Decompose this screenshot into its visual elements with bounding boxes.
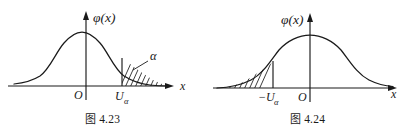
figure-panel-4-24: φ(x) x O −U α 图 4.24 bbox=[205, 0, 410, 137]
threshold-label-4-23: U α bbox=[115, 89, 129, 106]
density-curve-4-24 bbox=[217, 35, 393, 88]
plot-area-4-23: φ(x) x O U α α bbox=[0, 0, 205, 112]
caption-cjk-4-23: 图 bbox=[85, 113, 96, 126]
figure-panel-4-23: φ(x) x O U α α 图 4.23 bbox=[0, 0, 205, 137]
threshold-label-subscript-4-23: α bbox=[124, 96, 129, 106]
y-axis-arrow-icon bbox=[83, 11, 89, 20]
caption-number-4-24: 4.24 bbox=[304, 113, 325, 125]
y-axis-arrow-icon bbox=[307, 13, 313, 22]
origin-label-4-23: O bbox=[74, 88, 83, 102]
y-axis-label-4-24: φ(x) bbox=[281, 12, 304, 27]
caption-4-23: 图 4.23 bbox=[0, 110, 205, 126]
x-axis-label-4-23: x bbox=[179, 79, 186, 93]
caption-cjk-4-24: 图 bbox=[290, 113, 301, 126]
alpha-leader-line-4-23 bbox=[133, 61, 148, 70]
caption-number-4-23: 4.23 bbox=[99, 113, 120, 125]
alpha-area-label-4-23: α bbox=[150, 49, 157, 63]
plot-area-4-24: φ(x) x O −U α bbox=[205, 0, 410, 112]
x-axis-4-23 bbox=[8, 83, 174, 89]
threshold-label-subscript-4-24: α bbox=[274, 97, 279, 107]
threshold-label-4-24: −U α bbox=[258, 90, 279, 107]
y-axis-label-4-23: φ(x) bbox=[93, 10, 116, 25]
origin-label-4-24: O bbox=[298, 90, 307, 104]
y-axis-4-23 bbox=[83, 11, 89, 100]
x-axis-label-4-24: x bbox=[390, 87, 397, 101]
y-axis-4-24 bbox=[307, 13, 313, 102]
figure-sheet: φ(x) x O U α α 图 4.23 bbox=[0, 0, 410, 137]
caption-4-24: 图 4.24 bbox=[205, 110, 410, 126]
